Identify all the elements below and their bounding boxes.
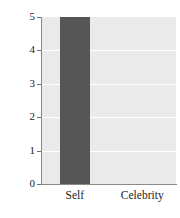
y-tick-label-wrap: 4 — [18, 44, 35, 55]
y-tick-label: 5 — [21, 11, 35, 22]
y-tick-label-wrap: 1 — [18, 145, 35, 156]
bar — [60, 17, 90, 184]
y-tick-label: 1 — [21, 145, 35, 156]
bar-chart: Number of patients 012345 SelfCelebrity — [0, 0, 180, 218]
y-tick-label: 2 — [21, 111, 35, 122]
x-axis-category-label: Celebrity — [109, 189, 177, 202]
y-tick-label: 0 — [21, 178, 35, 189]
y-axis-title: Number of patients — [3, 185, 17, 218]
y-tick-label-wrap: 3 — [18, 78, 35, 89]
x-axis-category-label: Self — [41, 189, 109, 202]
x-axis-line — [41, 184, 177, 185]
y-tick-label-wrap: 5 — [18, 11, 35, 22]
y-tick-label: 3 — [21, 78, 35, 89]
y-tick-label: 4 — [21, 44, 35, 55]
plot-area — [41, 17, 176, 184]
y-axis-line — [41, 17, 42, 185]
y-tick-label-wrap: 0 — [18, 178, 35, 189]
y-tick-label-wrap: 2 — [18, 111, 35, 122]
